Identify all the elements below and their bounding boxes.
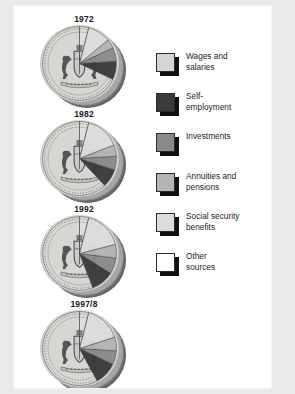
pie-year-label-1992: 1992 (14, 204, 154, 215)
pie-chart-1972: 1972 (14, 14, 154, 109)
pie-chart-1992: 1992 (14, 204, 154, 299)
legend-label-investments: Investments (186, 131, 270, 142)
legend-swatch-investments (156, 133, 175, 152)
legend-label-self-employment: Self- employment (186, 91, 270, 112)
coat-of-arms-icon (40, 25, 119, 102)
legend-swatch-other (156, 253, 175, 272)
legend-label-wages: Wages and salaries (186, 51, 270, 72)
coin-face (40, 120, 119, 197)
coin-graphic-1992 (38, 215, 130, 299)
pie-chart-1997-8: 1997/8 (14, 299, 154, 388)
legend-label-annuities: Annuities and pensions (186, 171, 270, 192)
legend-swatch-social-security (156, 213, 175, 232)
coat-of-arms-icon (40, 310, 119, 387)
coat-of-arms-icon (40, 120, 119, 197)
legend: Wages and salaries Self- employment Inve… (154, 6, 271, 388)
coin-graphic-1997-8 (38, 310, 130, 388)
legend-label-social-security: Social security benefits (186, 211, 270, 232)
coin-face (40, 310, 119, 387)
legend-swatch-annuities (156, 173, 175, 192)
figure-panel: 1972 (14, 6, 271, 388)
coin-face (40, 25, 119, 102)
legend-swatch-wages (156, 53, 175, 72)
coin-face (40, 215, 119, 292)
pie-year-label-1972: 1972 (14, 14, 154, 25)
pie-chart-column: 1972 (14, 6, 154, 388)
pie-year-label-1997-8: 1997/8 (14, 299, 154, 310)
pie-year-label-1982: 1982 (14, 109, 154, 120)
coat-of-arms-icon (40, 215, 119, 292)
legend-swatch-self-employment (156, 93, 175, 112)
coin-graphic-1972 (38, 25, 130, 109)
legend-label-other: Other sources (186, 251, 270, 272)
coin-graphic-1982 (38, 120, 130, 204)
pie-chart-1982: 1982 (14, 109, 154, 204)
